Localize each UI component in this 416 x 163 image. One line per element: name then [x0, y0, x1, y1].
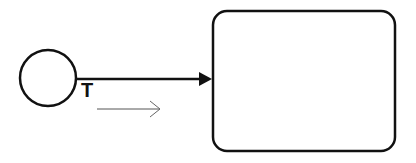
diagram-canvas: [0, 0, 416, 163]
sequence-flow[interactable]: [76, 72, 212, 86]
task-rectangle: [213, 11, 395, 151]
flow-label: T: [81, 79, 93, 101]
start-event[interactable]: [20, 50, 76, 106]
direction-hint-arrow: [97, 101, 160, 117]
arrowhead-icon: [199, 72, 212, 86]
task[interactable]: [213, 11, 395, 151]
start-event-circle: [20, 50, 76, 106]
